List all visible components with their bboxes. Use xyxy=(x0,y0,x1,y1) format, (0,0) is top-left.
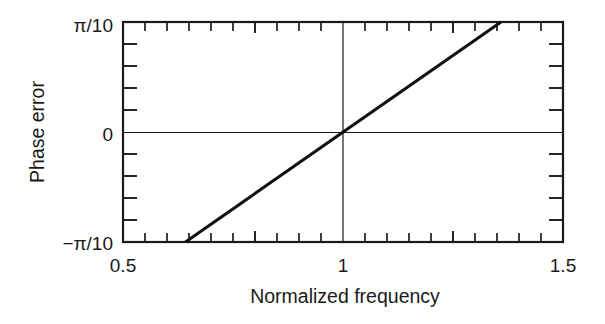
xtick-label-mid: 1 xyxy=(338,255,349,276)
chart-svg: π/10 0 −π/10 0.5 1 1.5 Phase error Norma… xyxy=(0,0,605,324)
y-axis-title: Phase error xyxy=(26,81,48,183)
ytick-label-top: π/10 xyxy=(73,15,113,36)
x-axis-title: Normalized frequency xyxy=(250,285,440,307)
ytick-label-mid: 0 xyxy=(102,124,113,145)
xtick-label-right: 1.5 xyxy=(550,255,576,276)
phase-error-chart: π/10 0 −π/10 0.5 1 1.5 Phase error Norma… xyxy=(0,0,605,324)
ytick-label-bottom: −π/10 xyxy=(62,233,113,254)
xtick-label-left: 0.5 xyxy=(110,255,136,276)
